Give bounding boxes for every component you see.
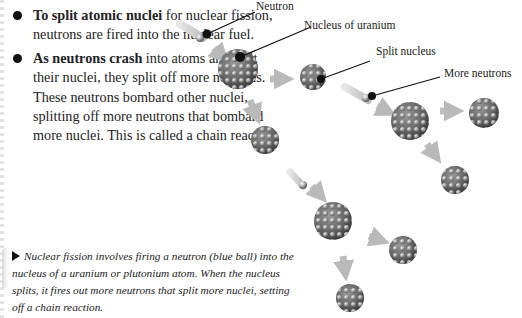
split-nucleus-c1 <box>389 236 417 264</box>
split-nucleus-b1 <box>469 98 499 128</box>
nucleus-c <box>314 202 352 240</box>
split-nucleus-2 <box>251 126 279 154</box>
nucleus-b <box>391 102 429 140</box>
incoming-neutron <box>180 24 204 42</box>
chain-reaction-diagram <box>0 0 522 318</box>
split-nucleus-c2 <box>336 284 364 312</box>
label-neutron: Neutron <box>256 0 294 12</box>
secondary-neutrons <box>290 87 370 189</box>
label-nucleus-of-uranium: Nucleus of uranium <box>304 19 395 31</box>
label-split-nucleus: Split nucleus <box>376 45 436 57</box>
split-nucleus-b2 <box>441 166 469 194</box>
label-more-neutrons: More neutrons <box>444 67 511 79</box>
